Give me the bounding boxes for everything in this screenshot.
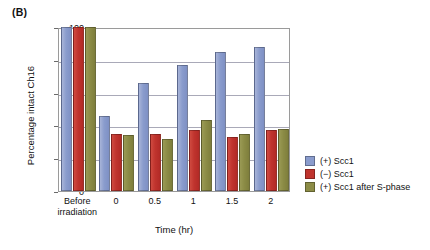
bar bbox=[150, 134, 161, 191]
bar bbox=[162, 139, 173, 191]
x-axis-tick-label: 2 bbox=[239, 196, 303, 207]
legend-label: (+) Scc1 after S-phase bbox=[320, 182, 410, 192]
bar-group bbox=[98, 29, 137, 191]
x-axis-title: Time (hr) bbox=[58, 224, 290, 235]
bar-group bbox=[252, 29, 291, 191]
legend-item[interactable]: (+) Scc1 bbox=[305, 156, 410, 166]
bar bbox=[215, 52, 226, 191]
bar-group bbox=[136, 29, 175, 191]
plot-area bbox=[58, 28, 290, 192]
bar bbox=[227, 137, 238, 191]
bar bbox=[177, 65, 188, 191]
bar bbox=[99, 116, 110, 191]
legend-swatch-icon bbox=[305, 182, 315, 192]
bar-group bbox=[214, 29, 253, 191]
legend-item[interactable]: (+) Scc1 after S-phase bbox=[305, 182, 410, 192]
bar bbox=[138, 83, 149, 191]
bar bbox=[123, 135, 134, 191]
bar bbox=[201, 120, 212, 191]
bar bbox=[254, 47, 265, 191]
legend-item[interactable]: (−) Scc1 bbox=[305, 169, 410, 179]
bar bbox=[73, 27, 84, 191]
bar bbox=[61, 27, 72, 191]
y-axis-tick-mark bbox=[54, 192, 58, 193]
panel-label: (B) bbox=[12, 6, 27, 18]
bar bbox=[239, 134, 250, 191]
bar bbox=[111, 134, 122, 191]
bar bbox=[189, 130, 200, 191]
legend-label: (−) Scc1 bbox=[320, 169, 354, 179]
figure-panel-b: (B) Percentage intact Ch16 020406080100 … bbox=[0, 0, 430, 250]
legend-swatch-icon bbox=[305, 169, 315, 179]
legend-label: (+) Scc1 bbox=[320, 156, 354, 166]
bar-group bbox=[175, 29, 214, 191]
legend: (+) Scc1(−) Scc1(+) Scc1 after S-phase bbox=[305, 156, 410, 192]
bar bbox=[266, 130, 277, 191]
y-axis-title: Percentage intact Ch16 bbox=[25, 31, 36, 201]
bar bbox=[85, 27, 96, 191]
bar-group bbox=[59, 29, 98, 191]
legend-swatch-icon bbox=[305, 156, 315, 166]
bar bbox=[278, 129, 289, 191]
